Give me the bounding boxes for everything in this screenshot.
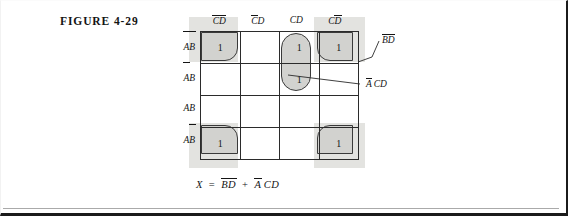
leader-lines [0,0,569,217]
leader-line-acd [288,75,360,84]
leader-line-bd [358,41,379,62]
